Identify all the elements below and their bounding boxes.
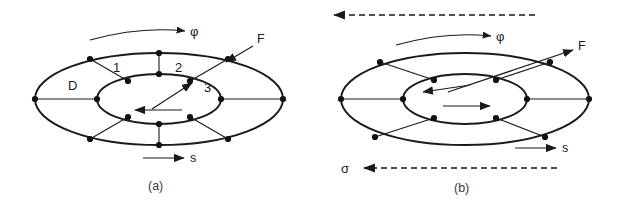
- vertex-node: [542, 134, 548, 140]
- panel-a: φ: [32, 24, 286, 193]
- vertex-node: [156, 121, 162, 127]
- inner-boundary-ellipse: [403, 74, 527, 124]
- spoke-upper-right: [496, 62, 550, 80]
- vertex-node: [280, 96, 286, 102]
- vertex-node: [225, 136, 231, 142]
- vertex-node: [156, 50, 162, 56]
- vertex-node: [400, 96, 406, 102]
- spoke-lower-left: [375, 118, 434, 137]
- figure-container: φ: [0, 0, 619, 201]
- spoke-lower-right: [496, 118, 545, 137]
- vertex-node: [547, 59, 553, 65]
- spoke-upper-right: [190, 59, 228, 81]
- vertex-node: [32, 96, 38, 102]
- panel-b: φ: [334, 15, 592, 195]
- panel-b-force-arrow-group: F: [423, 39, 586, 92]
- vertex-node: [431, 77, 437, 83]
- panel-b-s-arrow-group: s: [515, 141, 568, 155]
- diagram-svg: φ: [0, 0, 619, 201]
- force-label: F: [578, 39, 586, 53]
- vertex-node: [377, 59, 383, 65]
- vertex-node: [94, 96, 100, 102]
- phi-arc-arrow: [396, 35, 491, 45]
- inner-force-arrow: [152, 83, 192, 109]
- vertex-node: [87, 136, 93, 142]
- vertex-node: [187, 78, 193, 84]
- force-arrow: [226, 46, 253, 62]
- panel-a-force-arrow-group: F: [226, 32, 265, 62]
- vertex-node: [87, 56, 93, 62]
- vertex-node: [586, 96, 592, 102]
- vertex-node: [156, 142, 162, 148]
- spoke-lower-left: [90, 117, 128, 139]
- inner-force-arrow: [423, 85, 470, 92]
- vertex-node: [156, 71, 162, 77]
- vertex-node: [125, 78, 131, 84]
- s-label: s: [562, 141, 568, 155]
- panel-b-caption: (b): [454, 181, 469, 195]
- phi-arc-arrow: [90, 30, 185, 40]
- region-label-3: 3: [204, 80, 211, 95]
- vertex-node: [218, 96, 224, 102]
- region-label-1: 1: [113, 60, 120, 75]
- vertex-node: [524, 96, 530, 102]
- vertex-node: [493, 77, 499, 83]
- region-label-2: 2: [175, 60, 182, 75]
- vertex-node: [125, 114, 131, 120]
- panel-b-phi-arrow-group: φ: [396, 29, 504, 45]
- vertex-node: [372, 134, 378, 140]
- panel-b-sigma-arrow-group: σ: [341, 161, 557, 176]
- spoke-upper-left: [380, 62, 434, 80]
- vertex-node: [493, 115, 499, 121]
- vertex-node: [187, 114, 193, 120]
- spoke-lower-right: [190, 117, 228, 139]
- phi-label: φ: [496, 29, 504, 44]
- inner-boundary-ellipse: [97, 74, 221, 124]
- vertex-node: [338, 96, 344, 102]
- s-label: s: [190, 151, 196, 165]
- panel-a-caption: (a): [148, 179, 163, 193]
- spoke-upper-left: [90, 59, 128, 81]
- panel-a-phi-arrow-group: φ: [90, 24, 198, 40]
- force-label: F: [257, 32, 265, 46]
- vertex-node: [431, 115, 437, 121]
- phi-label: φ: [190, 24, 198, 39]
- sigma-label: σ: [341, 161, 349, 176]
- panel-a-s-arrow-group: s: [143, 151, 196, 165]
- region-label-D: D: [68, 78, 77, 93]
